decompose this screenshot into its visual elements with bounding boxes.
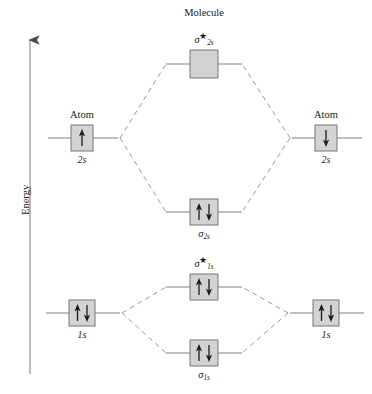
- orbital-box-atom-left-2s[interactable]: [71, 125, 93, 151]
- diagram-canvas: [0, 0, 372, 394]
- orbital-box: [190, 199, 218, 225]
- correlation-line: [242, 287, 288, 313]
- orbital-label-sigma-1s-antibonding: σ★1s: [194, 256, 213, 271]
- orbital-label-sigma-1s-bonding: σ1s: [198, 370, 210, 382]
- correlation-line: [122, 287, 166, 313]
- orbital-box: [190, 340, 218, 366]
- orbital-subscript: 1s: [203, 374, 209, 382]
- antibonding-star-icon: ★: [199, 255, 207, 265]
- orbital-box: [313, 300, 339, 326]
- orbital-label-sigma-2s-bonding: σ2s: [198, 229, 210, 241]
- correlation-line: [120, 138, 166, 212]
- orbital-label-atom-right-1s: 1s: [322, 330, 331, 340]
- correlation-line: [122, 313, 166, 353]
- orbital-box-sigma-1s-antibonding[interactable]: [190, 274, 218, 300]
- antibonding-star-icon: ★: [199, 31, 207, 41]
- correlation-line: [242, 138, 290, 212]
- orbital-box-atom-right-2s[interactable]: [315, 125, 337, 151]
- orbital-box: [190, 50, 218, 78]
- correlation-line: [120, 64, 166, 138]
- orbital-subscript: 2s: [203, 233, 209, 241]
- orbital-label-sigma-2s-antibonding: σ★2s: [194, 32, 213, 47]
- orbital-subscript: 2s: [207, 39, 213, 47]
- orbital-box-atom-left-1s[interactable]: [69, 300, 95, 326]
- left-atom-heading: Atom: [70, 110, 94, 121]
- orbital-box-sigma-1s-bonding[interactable]: [190, 340, 218, 366]
- orbital-label-atom-left-1s: 1s: [78, 330, 87, 340]
- orbital-box: [190, 274, 218, 300]
- energy-axis-label: Energy: [20, 185, 31, 215]
- orbital-box: [69, 300, 95, 326]
- orbital-box-sigma-2s-bonding[interactable]: [190, 199, 218, 225]
- molecule-heading: Molecule: [184, 8, 224, 19]
- orbital-label-atom-left-2s: 2s: [78, 155, 87, 165]
- orbital-box-sigma-2s-antibonding[interactable]: [190, 50, 218, 78]
- mo-energy-diagram: Energy Molecule Atom Atom σ★2s 2s 2s σ2s…: [0, 0, 372, 394]
- correlation-line: [242, 64, 290, 138]
- orbital-label-atom-right-2s: 2s: [322, 155, 331, 165]
- right-atom-heading: Atom: [314, 110, 338, 121]
- orbital-subscript: 1s: [207, 263, 213, 271]
- orbital-box-atom-right-1s[interactable]: [313, 300, 339, 326]
- correlation-line: [242, 313, 288, 353]
- correlation-lines-2s: [120, 64, 290, 212]
